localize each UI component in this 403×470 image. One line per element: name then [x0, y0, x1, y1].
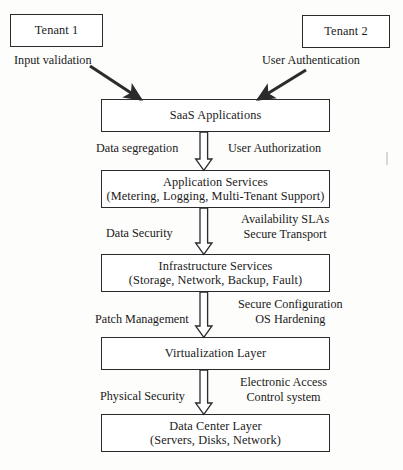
edge-label-data-segregation-text: Data segregation	[96, 141, 178, 155]
node-saas-applications: SaaS Applications	[101, 99, 330, 132]
arrow-tenant1-to-saas	[90, 66, 141, 100]
edge-label-physical-security-text: Physical Security	[100, 389, 185, 403]
edge-label-data-segregation: Data segregation	[96, 141, 178, 155]
node-virtualization-layer: Virtualization Layer	[101, 337, 330, 370]
node-infrastructure-services-label: Infrastructure Services	[159, 259, 273, 274]
node-application-services: Application Services (Metering, Logging,…	[101, 170, 330, 208]
edge-label-user-authentication: User Authentication	[262, 53, 360, 67]
edge-label-availability-slas: Availability SLAs Secure Transport	[241, 212, 329, 242]
edge-label-user-authentication-text: User Authentication	[262, 53, 360, 67]
edge-label-patch-management: Patch Management	[95, 312, 189, 326]
diagram-canvas: Tenant 1 Tenant 2 Input validation User …	[0, 0, 403, 470]
node-saas-applications-label: SaaS Applications	[170, 108, 262, 123]
node-tenant-1: Tenant 1	[10, 14, 103, 47]
edge-label-physical-security: Physical Security	[100, 389, 185, 403]
edge-label-patch-management-text: Patch Management	[95, 312, 189, 326]
edge-label-electronic-access: Electronic Access Control system	[240, 375, 327, 405]
node-application-services-sublabel: (Metering, Logging, Multi-Tenant Support…	[106, 189, 324, 204]
node-tenant-2-label: Tenant 2	[324, 24, 367, 39]
edge-label-secure-configuration-line1: Secure Configuration	[238, 297, 343, 312]
node-data-center-layer-label: Data Center Layer	[169, 419, 262, 434]
arrow-tenant2-to-saas	[258, 70, 306, 100]
node-virtualization-layer-label: Virtualization Layer	[165, 346, 266, 361]
edge-label-electronic-access-line1: Electronic Access	[240, 375, 327, 390]
node-data-center-layer-sublabel: (Servers, Disks, Network)	[150, 433, 281, 448]
edge-label-availability-slas-line2: Secure Transport	[241, 227, 329, 242]
edge-label-user-authorization-text: User Authorization	[228, 141, 321, 155]
edge-label-input-validation: Input validation	[14, 53, 92, 67]
node-infrastructure-services-sublabel: (Storage, Network, Backup, Fault)	[129, 273, 302, 288]
edge-label-secure-configuration-line2: OS Hardening	[238, 312, 343, 327]
node-tenant-1-label: Tenant 1	[35, 23, 78, 38]
edge-label-input-validation-text: Input validation	[14, 53, 92, 67]
node-application-services-label: Application Services	[163, 175, 268, 190]
node-data-center-layer: Data Center Layer (Servers, Disks, Netwo…	[101, 414, 330, 452]
edge-label-electronic-access-line2: Control system	[240, 390, 327, 405]
edge-label-user-authorization: User Authorization	[228, 141, 321, 155]
edge-label-data-security-text: Data Security	[106, 226, 173, 240]
edge-label-secure-configuration: Secure Configuration OS Hardening	[238, 297, 343, 327]
arrow-saas-to-application-services	[196, 132, 212, 171]
edge-label-availability-slas-line1: Availability SLAs	[241, 212, 329, 227]
arrow-layer	[0, 0, 403, 470]
arrow-application-to-infrastructure-services	[196, 208, 212, 255]
node-tenant-2: Tenant 2	[302, 15, 390, 48]
arrow-virtualization-to-data-center	[196, 370, 212, 415]
edge-label-data-security: Data Security	[106, 226, 173, 240]
scan-artifact-mark	[386, 152, 388, 165]
node-infrastructure-services: Infrastructure Services (Storage, Networ…	[101, 254, 330, 292]
arrow-infrastructure-to-virtualization	[196, 292, 212, 338]
